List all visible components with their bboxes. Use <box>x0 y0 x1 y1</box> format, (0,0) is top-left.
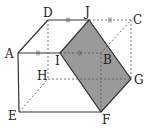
label-C: C <box>133 13 142 27</box>
label-I: I <box>55 54 60 68</box>
label-E: E <box>8 109 17 123</box>
label-J: J <box>83 5 90 19</box>
shaded-section-IJGF <box>60 20 131 112</box>
cube-diagram: D J C A I B H G E F <box>0 0 149 128</box>
label-A: A <box>4 47 14 61</box>
label-F: F <box>102 113 110 127</box>
label-H: H <box>37 69 47 83</box>
label-G: G <box>134 73 144 87</box>
label-D: D <box>43 6 53 20</box>
label-B: B <box>103 53 112 67</box>
